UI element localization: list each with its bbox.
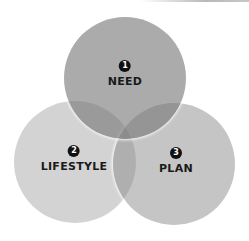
need-label-group: 1 NEED	[108, 60, 143, 88]
number-badge-1: 1	[119, 60, 131, 72]
plan-label: PLAN	[159, 162, 193, 175]
need-label: NEED	[108, 75, 143, 88]
lifestyle-label-group: 2 LIFESTYLE	[41, 145, 108, 173]
venn-diagram: 1 NEED 2 LIFESTYLE 3 PLAN	[0, 0, 249, 241]
number-badge-3: 3	[170, 147, 182, 159]
plan-label-group: 3 PLAN	[159, 147, 193, 175]
lifestyle-label: LIFESTYLE	[41, 160, 108, 173]
number-badge-2: 2	[68, 145, 80, 157]
